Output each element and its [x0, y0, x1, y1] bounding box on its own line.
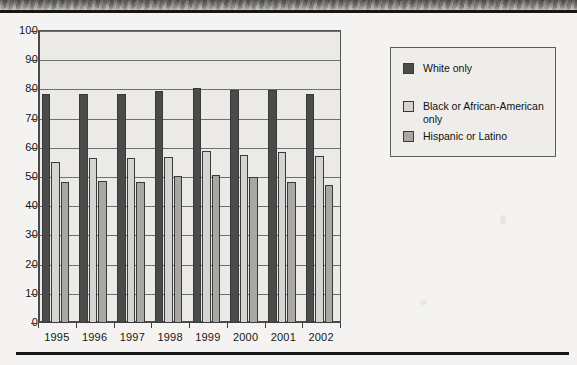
plot-frame-right — [340, 30, 341, 324]
bar[interactable] — [278, 152, 287, 323]
bar-group — [268, 31, 296, 323]
x-tick-mark — [114, 323, 115, 328]
chart-legend: White onlyBlack or African-American only… — [390, 47, 556, 157]
y-tick-mark — [31, 31, 37, 32]
x-tick-label: 1998 — [151, 331, 189, 343]
bar[interactable] — [89, 158, 98, 323]
bar[interactable] — [202, 151, 211, 323]
bar-group — [193, 31, 221, 323]
y-tick-label: 70 — [8, 112, 38, 124]
bar-group — [230, 31, 258, 323]
bar[interactable] — [230, 90, 239, 323]
bar[interactable] — [212, 175, 221, 323]
bar-group — [306, 31, 334, 323]
y-tick-label: 100 — [8, 24, 38, 36]
legend-item[interactable]: White only — [403, 62, 472, 75]
bar[interactable] — [174, 176, 183, 323]
bar-group — [79, 31, 107, 323]
x-tick-label: 2000 — [227, 331, 265, 343]
bar[interactable] — [240, 155, 249, 323]
chart-page: 0102030405060708090100 19951996199719981… — [0, 0, 577, 365]
paper-speck — [420, 300, 427, 305]
y-tick-label: 90 — [8, 53, 38, 65]
y-tick-label: 50 — [8, 170, 38, 182]
x-tick-mark — [340, 323, 341, 328]
y-tick-mark — [31, 206, 37, 207]
y-tick-mark — [31, 60, 37, 61]
bar[interactable] — [325, 185, 334, 323]
y-tick-label: 0 — [8, 316, 38, 328]
y-tick-mark — [31, 148, 37, 149]
legend-label: White only — [423, 62, 472, 75]
bar[interactable] — [79, 94, 88, 323]
x-tick-label: 2001 — [265, 331, 303, 343]
bars-layer — [38, 31, 340, 323]
y-tick-mark — [31, 323, 37, 324]
y-tick-mark — [31, 89, 37, 90]
scanned-page-edge-artifact — [0, 0, 577, 10]
legend-swatch-icon — [403, 101, 414, 112]
bar[interactable] — [51, 162, 60, 323]
legend-label: Black or African-American only — [423, 100, 551, 126]
y-tick-label: 60 — [8, 141, 38, 153]
x-tick-label: 1996 — [76, 331, 114, 343]
horizontal-rule-top — [0, 10, 577, 13]
horizontal-rule-bottom — [16, 352, 569, 355]
y-tick-label: 40 — [8, 199, 38, 211]
bar[interactable] — [136, 182, 145, 323]
y-tick-label: 80 — [8, 82, 38, 94]
bar-group — [42, 31, 70, 323]
x-tick-label: 1995 — [38, 331, 76, 343]
y-tick-label: 30 — [8, 228, 38, 240]
x-tick-mark — [189, 323, 190, 328]
paper-speck — [500, 215, 506, 224]
y-tick-mark — [31, 294, 37, 295]
y-tick-mark — [31, 119, 37, 120]
x-tick-mark — [38, 323, 39, 328]
y-tick-mark — [31, 235, 37, 236]
legend-item[interactable]: Hispanic or Latino — [403, 130, 507, 143]
x-tick-label: 1997 — [114, 331, 152, 343]
legend-swatch-icon — [403, 63, 414, 74]
y-tick-label: 10 — [8, 287, 38, 299]
y-tick-mark — [31, 265, 37, 266]
bar[interactable] — [155, 91, 164, 323]
bar[interactable] — [287, 182, 296, 323]
bar[interactable] — [98, 181, 107, 323]
legend-swatch-icon — [403, 131, 414, 142]
x-tick-mark — [265, 323, 266, 328]
bar[interactable] — [127, 158, 136, 323]
bar[interactable] — [315, 156, 324, 323]
x-tick-label: 2002 — [302, 331, 340, 343]
bar[interactable] — [268, 90, 277, 323]
legend-label: Hispanic or Latino — [423, 130, 507, 143]
x-tick-mark — [151, 323, 152, 328]
bar[interactable] — [61, 182, 70, 323]
bar[interactable] — [306, 94, 315, 323]
bar[interactable] — [42, 94, 51, 323]
x-tick-mark — [76, 323, 77, 328]
bar-group — [117, 31, 145, 323]
y-tick-mark — [31, 177, 37, 178]
bar[interactable] — [193, 88, 202, 323]
x-tick-mark — [227, 323, 228, 328]
legend-item[interactable]: Black or African-American only — [403, 100, 551, 126]
bar-group — [155, 31, 183, 323]
y-axis: 0102030405060708090100 — [0, 0, 38, 365]
y-tick-label: 20 — [8, 258, 38, 270]
bar[interactable] — [164, 157, 173, 323]
bar[interactable] — [249, 177, 258, 323]
bar[interactable] — [117, 94, 126, 323]
x-tick-mark — [302, 323, 303, 328]
x-tick-label: 1999 — [189, 331, 227, 343]
